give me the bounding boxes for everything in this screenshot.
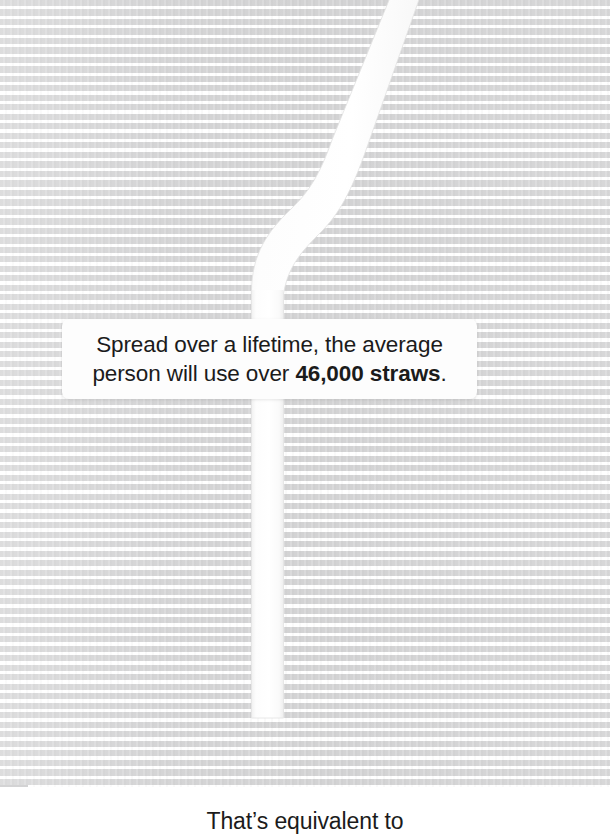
statistic-callout-box: Spread over a lifetime, the average pers…	[62, 319, 477, 399]
statistic-line-2-suffix: .	[440, 361, 446, 386]
straw-count-value: 46,000 straws	[295, 361, 440, 386]
statistic-line-1: Spread over a lifetime, the average	[96, 330, 443, 359]
bottom-caption-section: That’s equivalent to	[0, 787, 610, 834]
statistic-line-2: person will use over 46,000 straws.	[92, 359, 446, 388]
statistic-callout-text: Spread over a lifetime, the average pers…	[62, 319, 477, 399]
infographic-poster: Spread over a lifetime, the average pers…	[0, 0, 610, 834]
bottom-caption-text: That’s equivalent to	[0, 807, 610, 834]
statistic-line-2-prefix: person will use over	[92, 361, 295, 386]
